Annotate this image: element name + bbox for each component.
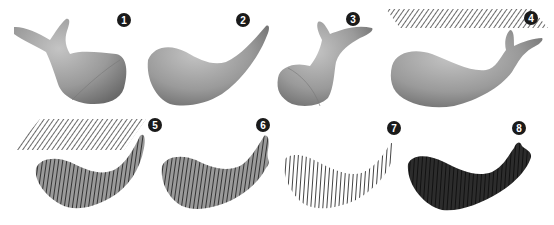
badge-4: 4 <box>524 11 538 25</box>
badge-8: 8 <box>512 121 526 135</box>
panel-8: 8 <box>408 121 531 210</box>
whale-model-icon <box>391 30 543 107</box>
badge-6: 6 <box>256 118 270 132</box>
svg-text:7: 7 <box>391 123 397 134</box>
panel-4: 4 <box>386 9 548 107</box>
panel-2: 2 <box>148 13 269 106</box>
slicing-plane-icon <box>14 119 146 150</box>
whale-slicing-diagram: 1 2 3 4 5 <box>0 0 554 225</box>
panel-3: 3 <box>278 12 373 106</box>
svg-text:3: 3 <box>350 14 356 25</box>
panel-1: 1 <box>14 13 131 104</box>
svg-text:8: 8 <box>516 123 522 134</box>
badge-5: 5 <box>148 118 162 132</box>
panel-7: 7 <box>284 121 401 208</box>
badge-3: 3 <box>346 12 360 26</box>
panel-5: 5 <box>14 118 162 208</box>
sliced-model-icon <box>162 136 269 209</box>
svg-text:5: 5 <box>152 120 158 131</box>
stacked-slices-icon <box>408 142 531 210</box>
svg-text:1: 1 <box>121 15 127 26</box>
slicing-plane-icon <box>386 9 548 28</box>
badge-1: 1 <box>117 13 131 27</box>
whale-model-icon <box>148 26 269 106</box>
whale-model-icon <box>278 22 373 106</box>
badge-7: 7 <box>387 121 401 135</box>
svg-text:2: 2 <box>240 15 246 26</box>
svg-text:6: 6 <box>260 120 266 131</box>
badge-2: 2 <box>236 13 250 27</box>
panel-6: 6 <box>162 118 270 209</box>
whale-model-icon <box>14 19 126 104</box>
contour-outline-icon <box>284 143 394 208</box>
svg-text:4: 4 <box>528 13 534 24</box>
